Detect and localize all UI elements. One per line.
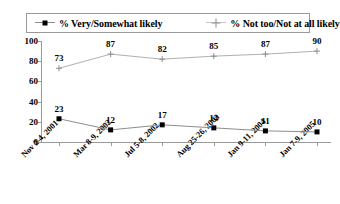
plus-marker-icon bbox=[211, 53, 217, 59]
square-marker-icon bbox=[160, 122, 165, 127]
series-line bbox=[59, 51, 317, 68]
data-point-label: 82 bbox=[158, 45, 167, 54]
square-marker-icon bbox=[108, 127, 113, 132]
square-marker-icon bbox=[211, 125, 216, 130]
square-marker-icon bbox=[57, 116, 62, 121]
data-point-label: 14 bbox=[209, 114, 218, 123]
data-point-label: 10 bbox=[313, 118, 322, 127]
data-point-label: 17 bbox=[158, 111, 167, 120]
plus-marker-icon bbox=[108, 51, 114, 57]
data-point-label: 23 bbox=[55, 105, 64, 114]
data-point-label: 87 bbox=[261, 40, 270, 49]
data-point-label: 87 bbox=[106, 40, 115, 49]
plus-marker-icon bbox=[56, 65, 62, 71]
plus-marker-icon bbox=[262, 51, 268, 57]
plus-marker-icon bbox=[159, 56, 165, 62]
data-point-label: 85 bbox=[209, 42, 218, 51]
plus-marker-icon bbox=[314, 48, 320, 54]
data-point-label: 11 bbox=[261, 117, 270, 126]
square-marker-icon bbox=[263, 128, 268, 133]
data-point-label: 73 bbox=[55, 54, 64, 63]
square-marker-icon bbox=[315, 129, 320, 134]
data-point-label: 12 bbox=[106, 116, 115, 125]
series-line bbox=[59, 119, 317, 132]
data-point-label: 90 bbox=[313, 37, 322, 46]
